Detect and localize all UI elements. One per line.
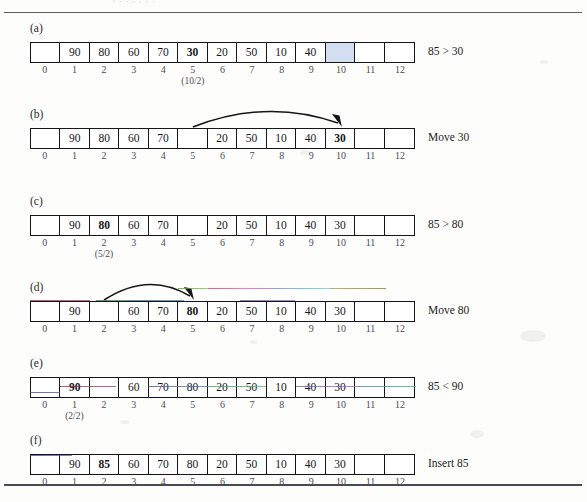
array-cell-9[interactable]: 40 (296, 302, 325, 321)
array-cell-12[interactable] (385, 378, 414, 397)
array-cell-8[interactable]: 10 (267, 43, 296, 62)
index-number: 7 (250, 64, 255, 75)
array-cells: 90856070802050104030 (30, 454, 415, 475)
array-cell-11[interactable] (355, 455, 384, 474)
index-label-11: 11 (356, 476, 386, 487)
array-cell-11[interactable] (355, 302, 384, 321)
array-cell-12[interactable] (385, 216, 414, 235)
array-cell-3[interactable]: 60 (119, 302, 148, 321)
index-number: 1 (72, 237, 77, 248)
array-cell-2[interactable] (90, 378, 119, 397)
index-label-6: 6 (208, 399, 238, 421)
array-cell-4[interactable]: 70 (149, 129, 178, 148)
array-cell-12[interactable] (385, 455, 414, 474)
array-cell-4[interactable]: 70 (149, 216, 178, 235)
array-cell-3[interactable]: 60 (119, 129, 148, 148)
index-label-11: 11 (356, 399, 386, 421)
array-cell-2[interactable]: 80 (90, 216, 119, 235)
array-cell-9[interactable]: 40 (296, 455, 325, 474)
array-cell-8[interactable]: 10 (267, 216, 296, 235)
array-cell-12[interactable] (385, 129, 414, 148)
array-cell-11[interactable] (355, 378, 384, 397)
array-cell-0[interactable] (31, 455, 60, 474)
array-cell-3[interactable]: 60 (119, 455, 148, 474)
array-cell-2[interactable] (90, 302, 119, 321)
array-cell-0[interactable] (31, 43, 60, 62)
array-cell-1[interactable]: 90 (60, 455, 89, 474)
array-cell-4[interactable]: 70 (149, 302, 178, 321)
array-cell-5[interactable]: 80 (178, 378, 207, 397)
array-cell-8[interactable]: 10 (267, 129, 296, 148)
array-cell-8[interactable]: 10 (267, 302, 296, 321)
array-cell-5[interactable] (178, 216, 207, 235)
array-cell-7[interactable]: 50 (237, 455, 266, 474)
array-cell-11[interactable] (355, 129, 384, 148)
array-cell-6[interactable]: 20 (208, 216, 237, 235)
array-cell-4[interactable]: 70 (149, 378, 178, 397)
array-cell-9[interactable]: 40 (296, 378, 325, 397)
array-cell-7[interactable]: 50 (237, 129, 266, 148)
index-label-2: 2 (89, 150, 119, 161)
array-cell-7[interactable]: 50 (237, 302, 266, 321)
array-cell-11[interactable] (355, 216, 384, 235)
array-cell-0[interactable] (31, 216, 60, 235)
index-label-10: 10 (326, 323, 356, 334)
array-cell-9[interactable]: 40 (296, 129, 325, 148)
array-cell-8[interactable]: 10 (267, 455, 296, 474)
array-row: 90607080205010403001(2/2)23456789101112 (30, 377, 415, 421)
index-label-9: 9 (296, 399, 326, 421)
array-cell-10[interactable]: 30 (326, 378, 355, 397)
index-number: 7 (250, 323, 255, 334)
array-cell-6[interactable]: 20 (208, 129, 237, 148)
array-cell-10[interactable]: 30 (326, 302, 355, 321)
index-label-10: 10 (326, 237, 356, 259)
top-rule (4, 12, 582, 13)
panel-label: (d) (30, 281, 43, 293)
array-cell-6[interactable]: 20 (208, 455, 237, 474)
array-cell-9[interactable]: 40 (296, 43, 325, 62)
array-cell-7[interactable]: 50 (237, 378, 266, 397)
array-cell-6[interactable]: 20 (208, 302, 237, 321)
index-number: 11 (366, 237, 376, 248)
array-cell-4[interactable]: 70 (149, 43, 178, 62)
array-cell-1[interactable]: 90 (60, 378, 89, 397)
array-cell-6[interactable]: 20 (208, 43, 237, 62)
array-cell-3[interactable]: 60 (119, 378, 148, 397)
array-cell-1[interactable]: 90 (60, 216, 89, 235)
array-cell-3[interactable]: 60 (119, 43, 148, 62)
index-row: 012(5/2)3456789101112 (30, 237, 415, 259)
array-cell-0[interactable] (31, 302, 60, 321)
array-cell-4[interactable]: 70 (149, 455, 178, 474)
array-cell-2[interactable]: 80 (90, 129, 119, 148)
array-cell-10[interactable]: 30 (326, 455, 355, 474)
array-cell-12[interactable] (385, 302, 414, 321)
array-cell-0[interactable] (31, 378, 60, 397)
array-cell-1[interactable]: 90 (60, 43, 89, 62)
array-row: 9060708020501040300123456789101112 (30, 301, 415, 334)
paper-speck (520, 330, 546, 342)
array-cell-5[interactable]: 80 (178, 455, 207, 474)
array-cell-7[interactable]: 50 (237, 43, 266, 62)
array-cell-5[interactable]: 30 (178, 43, 207, 62)
array-cell-2[interactable]: 85 (90, 455, 119, 474)
array-cell-6[interactable]: 20 (208, 378, 237, 397)
array-cell-12[interactable] (385, 43, 414, 62)
array-cell-5[interactable] (178, 129, 207, 148)
array-cell-11[interactable] (355, 43, 384, 62)
index-label-3: 3 (119, 237, 149, 259)
array-cell-5[interactable]: 80 (178, 302, 207, 321)
array-cell-10[interactable]: 30 (326, 129, 355, 148)
array-cell-1[interactable]: 90 (60, 302, 89, 321)
array-cell-8[interactable]: 10 (267, 378, 296, 397)
array-cell-9[interactable]: 40 (296, 216, 325, 235)
array-cell-7[interactable]: 50 (237, 216, 266, 235)
array-cell-3[interactable]: 60 (119, 216, 148, 235)
array-cell-10[interactable]: 30 (326, 216, 355, 235)
array-cell-2[interactable]: 80 (90, 43, 119, 62)
index-label-0: 0 (30, 476, 60, 487)
array-cell-10[interactable] (326, 43, 355, 62)
index-number: 10 (336, 323, 346, 334)
index-number: 6 (220, 399, 225, 410)
array-cell-1[interactable]: 90 (60, 129, 89, 148)
array-cell-0[interactable] (31, 129, 60, 148)
